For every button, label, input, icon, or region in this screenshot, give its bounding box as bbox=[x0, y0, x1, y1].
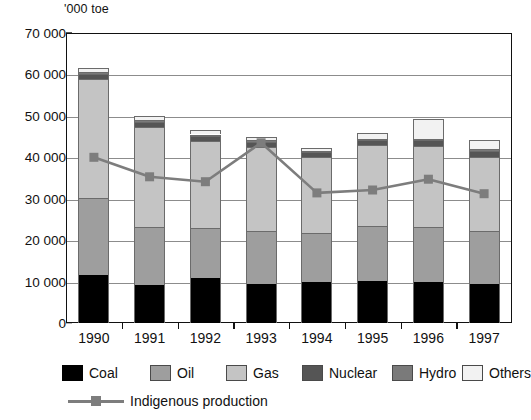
bar-1996 bbox=[413, 33, 444, 323]
y-axis-tick-label: 60 000 bbox=[8, 67, 66, 82]
y-axis-tick-label: 10 000 bbox=[8, 274, 66, 289]
bar-segment-nuclear bbox=[413, 140, 444, 145]
bar-segment-nuclear bbox=[469, 151, 500, 157]
bar-segment-coal bbox=[469, 284, 500, 323]
bar-1997 bbox=[469, 33, 500, 323]
bar-series-layer bbox=[66, 33, 512, 323]
bar-segment-gas bbox=[134, 127, 165, 228]
bar-segment-oil bbox=[301, 233, 332, 282]
bar-segment-hydro bbox=[134, 120, 165, 121]
legend-label: Coal bbox=[89, 366, 118, 380]
bar-segment-gas bbox=[301, 157, 332, 233]
bar-segment-others bbox=[357, 133, 388, 139]
bar-segment-hydro bbox=[190, 135, 221, 136]
y-axis-tick-label: 40 000 bbox=[8, 150, 66, 165]
bar-1993 bbox=[246, 33, 277, 323]
x-axis-tick-label: 1993 bbox=[246, 330, 277, 346]
x-axis-tick-label: 1995 bbox=[357, 330, 388, 346]
bar-segment-gas bbox=[357, 145, 388, 226]
x-axis-tick-label: 1994 bbox=[301, 330, 332, 346]
x-axis-tick bbox=[401, 323, 402, 329]
bar-segment-nuclear bbox=[357, 140, 388, 145]
bar-segment-coal bbox=[413, 282, 444, 323]
bar-segment-others bbox=[134, 116, 165, 121]
x-axis-tick-label: 1991 bbox=[134, 330, 165, 346]
legend-swatch-icon bbox=[462, 365, 483, 381]
bar-segment-nuclear bbox=[78, 74, 109, 79]
legend: CoalOilGasNuclearHydroOthers Indigenous … bbox=[0, 362, 528, 418]
legend-label: Indigenous production bbox=[130, 394, 268, 408]
legend-item-nuclear[interactable]: Nuclear bbox=[302, 362, 377, 384]
y-axis-tick-label: 20 000 bbox=[8, 233, 66, 248]
bar-segment-gas bbox=[78, 79, 109, 198]
legend-item-oil[interactable]: Oil bbox=[150, 362, 194, 384]
bar-segment-coal bbox=[357, 281, 388, 323]
bar-segment-nuclear bbox=[301, 152, 332, 157]
bar-1994 bbox=[301, 33, 332, 323]
bar-segment-coal bbox=[190, 278, 221, 323]
bar-segment-others bbox=[78, 68, 109, 72]
bar-segment-oil bbox=[134, 227, 165, 285]
legend-swatch-icon bbox=[62, 365, 83, 381]
x-axis-tick bbox=[122, 323, 123, 329]
bar-segment-coal bbox=[301, 282, 332, 323]
bar-segment-oil bbox=[190, 228, 221, 278]
legend-label: Hydro bbox=[419, 366, 456, 380]
bar-segment-gas bbox=[246, 147, 277, 232]
bar-1992 bbox=[190, 33, 221, 323]
bar-segment-hydro bbox=[357, 139, 388, 140]
legend-swatch-icon bbox=[150, 365, 171, 381]
legend-item-coal[interactable]: Coal bbox=[62, 362, 118, 384]
bar-segment-oil bbox=[246, 231, 277, 284]
bar-segment-oil bbox=[78, 198, 109, 275]
y-axis-unit-caption: '000 toe bbox=[64, 2, 109, 16]
legend-item-hydro[interactable]: Hydro bbox=[392, 362, 456, 384]
bar-segment-coal bbox=[246, 284, 277, 323]
x-axis-tick-label: 1997 bbox=[469, 330, 500, 346]
legend-item-indigenous-production[interactable]: Indigenous production bbox=[68, 390, 268, 412]
bar-segment-nuclear bbox=[190, 136, 221, 141]
bar-segment-others bbox=[301, 148, 332, 151]
legend-item-others[interactable]: Others bbox=[462, 362, 531, 384]
x-axis-tick bbox=[456, 323, 457, 329]
bar-1991 bbox=[134, 33, 165, 323]
legend-line-marker-icon bbox=[68, 393, 124, 409]
bar-segment-others bbox=[190, 130, 221, 134]
y-axis-tick-label: 30 000 bbox=[8, 191, 66, 206]
x-axis-tick bbox=[233, 323, 234, 329]
bar-segment-gas bbox=[469, 157, 500, 231]
bar-1995 bbox=[357, 33, 388, 323]
legend-item-gas[interactable]: Gas bbox=[226, 362, 279, 384]
bar-segment-nuclear bbox=[246, 142, 277, 147]
bar-segment-oil bbox=[469, 231, 500, 284]
y-axis: 010 00020 00030 00040 00050 00060 00070 … bbox=[0, 33, 66, 323]
x-axis-tick-label: 1990 bbox=[78, 330, 109, 346]
bar-segment-coal bbox=[78, 275, 109, 323]
bar-segment-oil bbox=[413, 227, 444, 281]
bar-segment-hydro bbox=[301, 151, 332, 152]
bar-segment-others bbox=[469, 140, 500, 150]
bar-segment-hydro bbox=[246, 140, 277, 141]
x-axis-tick bbox=[345, 323, 346, 329]
bar-segment-gas bbox=[190, 141, 221, 228]
bar-segment-hydro bbox=[413, 139, 444, 140]
x-axis-tick-label: 1992 bbox=[190, 330, 221, 346]
bar-segment-others bbox=[413, 119, 444, 139]
legend-label: Gas bbox=[253, 366, 279, 380]
legend-row-line: Indigenous production bbox=[0, 390, 528, 416]
legend-swatch-icon bbox=[392, 365, 413, 381]
legend-swatch-icon bbox=[302, 365, 323, 381]
bar-segment-others bbox=[246, 137, 277, 141]
legend-label: Nuclear bbox=[329, 366, 377, 380]
bar-segment-oil bbox=[357, 226, 388, 280]
x-axis-tick bbox=[289, 323, 290, 329]
x-axis-tick-label: 1996 bbox=[413, 330, 444, 346]
bar-segment-hydro bbox=[78, 72, 109, 73]
legend-swatch-icon bbox=[226, 365, 247, 381]
y-axis-tick-label: 50 000 bbox=[8, 108, 66, 123]
y-axis-tick-label: 70 000 bbox=[8, 26, 66, 41]
bar-segment-nuclear bbox=[134, 122, 165, 127]
legend-row-categories: CoalOilGasNuclearHydroOthers bbox=[0, 362, 528, 388]
bar-1990 bbox=[78, 33, 109, 323]
